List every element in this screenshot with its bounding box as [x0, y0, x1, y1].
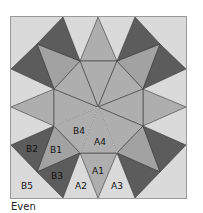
label-b2: B2: [26, 144, 38, 154]
label-b5: B5: [21, 181, 33, 191]
label-a3: A3: [111, 181, 123, 191]
label-b3: B3: [51, 171, 63, 181]
label-a1: A1: [92, 166, 104, 176]
label-a2: A2: [75, 181, 87, 191]
quilt-block-diagram: B4 A4 B2 B1 A1 B3 B5 A2 A3: [0, 0, 203, 213]
label-b4: B4: [73, 126, 85, 136]
diagram-caption: Even: [11, 201, 36, 212]
label-b1: B1: [50, 145, 62, 155]
label-a4: A4: [94, 137, 106, 147]
